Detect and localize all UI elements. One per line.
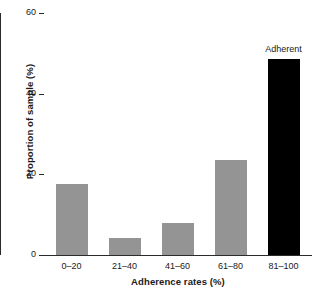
bar bbox=[162, 223, 194, 255]
x-axis-tick-label: 81–100 bbox=[254, 262, 314, 271]
adherent-annotation-label: Adherent bbox=[255, 45, 313, 54]
y-axis-tick-label: 40 bbox=[0, 89, 36, 98]
x-axis-tick-label: 21–40 bbox=[95, 262, 155, 271]
y-axis-tick-mark bbox=[39, 174, 44, 175]
y-axis-line bbox=[0, 13, 1, 255]
x-axis-tick-label: 41–60 bbox=[148, 262, 208, 271]
y-axis-tick-mark bbox=[39, 94, 44, 95]
y-axis-tick-label: 0 bbox=[0, 250, 36, 259]
x-axis-line bbox=[44, 255, 312, 256]
y-axis-tick-label: 60 bbox=[0, 8, 36, 17]
x-axis-tick-label: 0–20 bbox=[42, 262, 102, 271]
bar bbox=[268, 59, 300, 255]
x-axis-title: Adherence rates (%) bbox=[44, 276, 312, 287]
y-axis-tick-label: 20 bbox=[0, 169, 36, 178]
bar bbox=[215, 160, 247, 255]
bar bbox=[109, 238, 141, 255]
y-axis-tick-mark bbox=[39, 13, 44, 14]
bar-chart-figure: Proportion of sample (%) 0204060 0–2021–… bbox=[0, 0, 325, 290]
bar bbox=[56, 184, 88, 255]
y-axis-title: Proportion of sample (%) bbox=[24, 27, 35, 217]
x-axis-tick-label: 61–80 bbox=[201, 262, 261, 271]
